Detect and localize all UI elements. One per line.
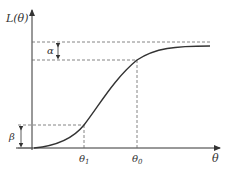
y-axis-label: L(θ) <box>5 12 29 25</box>
alpha-label: α <box>47 45 54 56</box>
sigmoid-curve <box>34 46 210 148</box>
beta-label: β <box>8 131 15 142</box>
sigmoid-diagram: L(θ) θ α β θ1 θ0 <box>0 0 232 172</box>
theta0-tick-label: θ0 <box>132 153 143 166</box>
theta1-tick-label: θ1 <box>79 153 90 166</box>
x-axis-label: θ <box>212 152 219 165</box>
